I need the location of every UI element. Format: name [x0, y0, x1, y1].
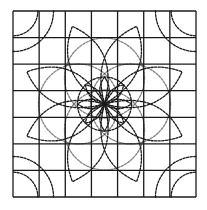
- corner-arc: [13, 11, 54, 52]
- corner-arc: [13, 11, 38, 36]
- corner-arc: [155, 11, 196, 52]
- corner-arc: [13, 172, 38, 197]
- corner-arc: [155, 156, 196, 197]
- corner-arc: [13, 156, 54, 197]
- corner-arc: [171, 172, 196, 197]
- quilt-pattern-diagram: [0, 0, 207, 210]
- corner-arc: [171, 11, 196, 36]
